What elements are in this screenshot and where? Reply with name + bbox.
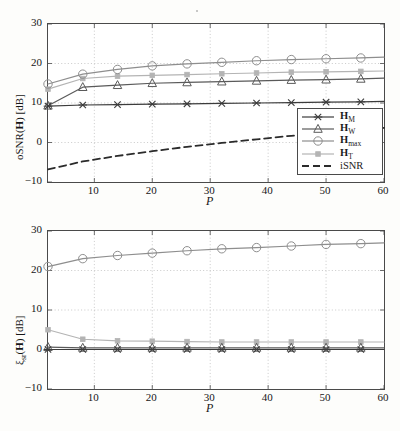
x-tick-label: 20 (136, 391, 166, 403)
legend-item: HT (301, 148, 378, 160)
y-tick-label: 30 (8, 16, 42, 28)
x-tick-label: 40 (252, 184, 282, 196)
y-tick-label: 0 (8, 135, 42, 147)
x-tick-label: 60 (368, 184, 398, 196)
y-axis-label-speech-reduction: ξsr(H) [dB] (13, 316, 28, 365)
x-tick-label: 10 (78, 184, 108, 196)
x-tick-label: 40 (252, 391, 282, 403)
legend-sample-dashed-line (301, 160, 335, 172)
x-tick-label: 10 (78, 391, 108, 403)
y-tick-label: 20 (8, 56, 42, 68)
legend-label: iSNR (335, 160, 363, 171)
y-tick-label: 10 (8, 95, 42, 107)
legend-sample-x-marker (301, 111, 335, 123)
panel-osnr: oSNR(H) [dB] −100102030102030405060 P HM… (0, 0, 400, 215)
y-tick-label: −10 (8, 174, 42, 186)
x-axis-label-osnr: P (206, 194, 213, 209)
plot-canvas-speech-reduction (48, 231, 384, 389)
legend-sample-square-marker (301, 148, 335, 160)
legend-sample-circle-marker (301, 135, 335, 147)
y-tick-label: 0 (8, 342, 42, 354)
legend-label: HT (335, 147, 353, 161)
plot-area-speech-reduction (47, 230, 385, 390)
y-tick-label: 20 (8, 263, 42, 275)
x-tick-label: 50 (310, 184, 340, 196)
x-axis-label-speech-reduction: P (206, 401, 213, 416)
scan-artifact (196, 10, 198, 12)
legend-sample-triangle-marker (301, 123, 335, 135)
figure-two-panel-chart: oSNR(H) [dB] −100102030102030405060 P HM… (0, 0, 400, 431)
legend: HMHWHmaxHTiSNR (297, 108, 383, 175)
x-tick-label: 60 (368, 391, 398, 403)
x-tick-label: 20 (136, 184, 166, 196)
y-tick-label: 30 (8, 223, 42, 235)
x-tick-label: 50 (310, 391, 340, 403)
panel-speech-reduction: ξsr(H) [dB] −100102030102030405060 P (0, 215, 400, 431)
y-tick-label: −10 (8, 381, 42, 393)
legend-item: iSNR (301, 160, 378, 172)
y-tick-label: 10 (8, 302, 42, 314)
